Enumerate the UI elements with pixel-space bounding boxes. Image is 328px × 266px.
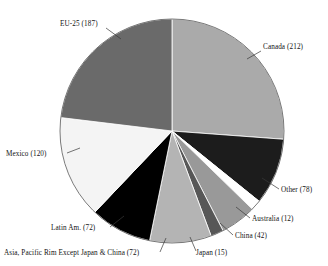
pie-slice-label: Japan (15)	[196, 249, 228, 257]
pie-slice-label: Canada (212)	[263, 43, 304, 51]
pie-slice[interactable]	[172, 19, 284, 139]
pie-chart-canvas: Canada (212)Other (78)Australia (12)Chin…	[0, 0, 328, 266]
pie-slice-label: EU-25 (187)	[60, 20, 98, 28]
pie-chart: Canada (212)Other (78)Australia (12)Chin…	[0, 0, 328, 266]
pie-slice-label: Asia, Pacific Rim Except Japan & China (…	[4, 249, 140, 257]
pie-slice-label: Mexico (120)	[6, 150, 47, 158]
pie-slice-label: Latin Am. (72)	[51, 224, 96, 232]
pie-slice-label: Australia (12)	[252, 215, 294, 223]
pie-slices	[60, 19, 284, 243]
pie-slice-label: China (42)	[235, 232, 267, 240]
pie-slice-label: Other (78)	[281, 186, 313, 194]
